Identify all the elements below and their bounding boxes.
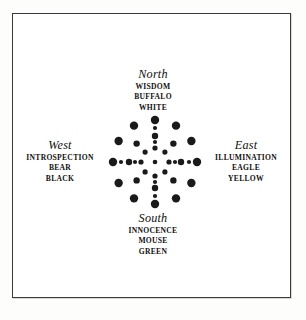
direction-word-north-0: WISDOM: [0, 82, 306, 92]
wheel-dot-axis-fill-inner-0: [153, 140, 157, 144]
direction-word-west-0: INTROSPECTION: [14, 153, 106, 163]
direction-word-west-2: BLACK: [14, 174, 106, 184]
wheel-dot-mid-cross-3: [170, 177, 176, 183]
medicine-wheel-figure: North WISDOM BUFFALO WHITE West INTROSPE…: [0, 0, 306, 320]
wheel-dot-inner-cross-6: [138, 159, 143, 164]
wheel-dot-group: [109, 116, 201, 208]
wheel-dot-inner-cross-5: [143, 169, 148, 174]
wheel-dot-outer-ring-2: [187, 137, 195, 145]
wheel-dot-outer-ring-0: [151, 116, 159, 124]
wheel-dot-inner-cross-4: [152, 173, 157, 178]
direction-title-north: North: [0, 68, 306, 80]
wheel-dot-axis-fill-inner-2: [153, 180, 157, 184]
wheel-dot-inner-cross-0: [152, 145, 157, 150]
direction-word-south-2: GREEN: [0, 247, 306, 257]
wheel-dot-axis-fill-2: [153, 194, 157, 198]
wheel-dot-mid-cross-7: [133, 140, 139, 146]
direction-block-south: South INNOCENCE MOUSE GREEN: [0, 212, 306, 257]
wheel-dot-axis-fill-inner-1: [173, 160, 177, 164]
wheel-dot-outer-ring-4: [187, 179, 195, 187]
wheel-dot-outer-ring-10: [114, 137, 122, 145]
wheel-dot-outer-ring-11: [130, 121, 138, 129]
direction-title-east: East: [200, 139, 292, 151]
wheel-dot-axis-fill-1: [187, 160, 191, 164]
wheel-dot-mid-cross-5: [133, 177, 139, 183]
wheel-dot-center-0: [153, 160, 158, 165]
wheel-dot-inner-cross-2: [166, 159, 171, 164]
wheel-dot-axis-fill-3: [119, 160, 123, 164]
wheel-dot-mid-cross-0: [152, 133, 158, 139]
direction-block-east: East ILLUMINATION EAGLE YELLOW: [200, 139, 292, 184]
wheel-dot-inner-cross-1: [162, 150, 167, 155]
wheel-dot-mid-cross-1: [170, 140, 176, 146]
wheel-dot-outer-ring-3: [193, 158, 201, 166]
wheel-svg: [105, 112, 205, 212]
wheel-dot-inner-cross-3: [162, 169, 167, 174]
direction-word-west-1: BEAR: [14, 163, 106, 173]
wheel-dot-mid-cross-4: [152, 185, 158, 191]
wheel-dot-outer-ring-8: [114, 179, 122, 187]
wheel-dot-outer-ring-7: [130, 194, 138, 202]
wheel-dot-outer-ring-5: [172, 194, 180, 202]
direction-block-west: West INTROSPECTION BEAR BLACK: [14, 139, 106, 184]
wheel-dot-outer-ring-1: [172, 121, 180, 129]
direction-title-west: West: [14, 139, 106, 151]
medicine-wheel-dots: [105, 112, 205, 212]
wheel-dot-axis-fill-0: [153, 126, 157, 130]
wheel-dot-outer-ring-6: [151, 200, 159, 208]
direction-word-north-1: BUFFALO: [0, 92, 306, 102]
direction-block-north: North WISDOM BUFFALO WHITE: [0, 68, 306, 113]
wheel-dot-inner-cross-7: [143, 150, 148, 155]
direction-word-east-2: YELLOW: [200, 174, 292, 184]
wheel-dot-axis-fill-inner-3: [133, 160, 137, 164]
wheel-dot-mid-cross-6: [126, 159, 132, 165]
direction-title-south: South: [0, 212, 306, 224]
direction-word-south-0: INNOCENCE: [0, 226, 306, 236]
direction-word-south-1: MOUSE: [0, 236, 306, 246]
direction-word-east-1: EAGLE: [200, 163, 292, 173]
wheel-dot-mid-cross-2: [178, 159, 184, 165]
direction-word-east-0: ILLUMINATION: [200, 153, 292, 163]
wheel-dot-outer-ring-9: [109, 158, 117, 166]
